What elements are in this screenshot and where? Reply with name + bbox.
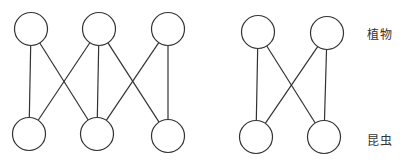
plant-node-P1 <box>15 13 48 46</box>
left-network <box>13 13 185 153</box>
plant-node-P2 <box>311 17 344 50</box>
edge-P1-I1 <box>29 45 30 117</box>
insect-node-I2 <box>81 118 114 151</box>
plant-node-P3 <box>152 13 185 46</box>
plant-node-P2 <box>83 13 116 46</box>
insect-node-I1 <box>240 121 273 154</box>
insect-node-I3 <box>152 120 185 153</box>
bipartite-network-diagram <box>0 0 415 165</box>
edge-P1-I1 <box>256 48 257 120</box>
edge-P2-I1 <box>265 47 317 124</box>
insect-node-I2 <box>308 121 341 154</box>
edge-P2-I2 <box>97 45 98 117</box>
insects-label: 昆虫 <box>367 131 393 148</box>
plants-label: 植物 <box>367 25 393 42</box>
insect-node-I1 <box>13 118 46 151</box>
edge-P2-I1 <box>38 43 90 121</box>
edge-P2-I3 <box>108 43 159 122</box>
right-network <box>240 16 344 154</box>
edge-P2-I2 <box>324 49 326 120</box>
plant-node-P1 <box>242 16 275 49</box>
